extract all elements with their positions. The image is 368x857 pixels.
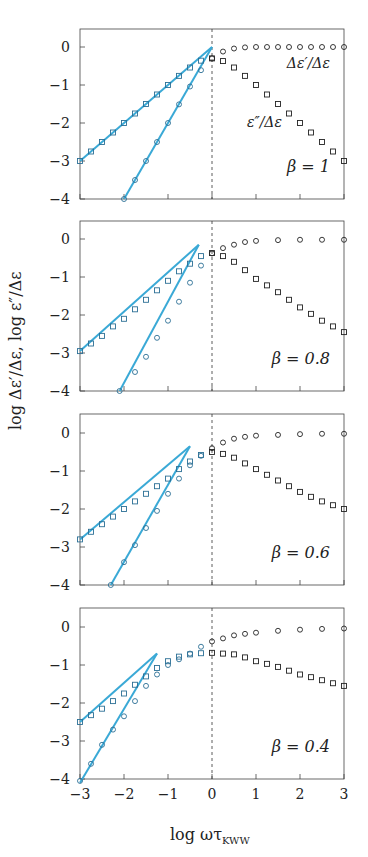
svg-text:ε″/Δε: ε″/Δε	[247, 114, 282, 130]
svg-text:−3: −3	[70, 786, 91, 802]
svg-text:−3: −3	[49, 345, 70, 361]
svg-text:−4: −4	[49, 191, 70, 207]
svg-text:−3: −3	[49, 153, 70, 169]
x-axis-label: log ωτKWW	[170, 825, 250, 846]
svg-text:−4: −4	[49, 771, 70, 787]
beta-label: β = 0.8	[271, 349, 330, 368]
panel-1: 0−1−2−3−4β = 1Δε′/Δεε″/Δε	[49, 29, 346, 207]
svg-text:1: 1	[252, 786, 261, 802]
beta-label: β = 0.4	[271, 737, 330, 756]
figure: 0−1−2−3−4β = 1Δε′/Δεε″/Δε0−1−2−3−4β = 0.…	[0, 0, 368, 857]
svg-text:Δε′/Δε: Δε′/Δε	[286, 55, 330, 71]
svg-text:−1: −1	[158, 786, 179, 802]
svg-text:−1: −1	[49, 269, 70, 285]
panel-2: 0−1−2−3−4β = 0.8	[49, 221, 346, 399]
svg-text:−2: −2	[49, 307, 70, 323]
svg-text:−1: −1	[49, 463, 70, 479]
y-axis-label: log Δε′/Δε, log ε″/Δε	[6, 271, 25, 430]
panel-4: 0−1−2−3−4β = 0.4−3−2−10123	[49, 608, 348, 802]
svg-text:3: 3	[340, 786, 349, 802]
svg-text:−3: −3	[49, 733, 70, 749]
beta-label: β = 1	[286, 157, 330, 176]
svg-text:−3: −3	[49, 539, 70, 555]
svg-text:−1: −1	[49, 77, 70, 93]
svg-text:−4: −4	[49, 383, 70, 399]
svg-text:0: 0	[208, 786, 217, 802]
svg-text:0: 0	[61, 425, 70, 441]
svg-text:−2: −2	[49, 501, 70, 517]
svg-text:−2: −2	[49, 115, 70, 131]
svg-text:2: 2	[296, 786, 305, 802]
svg-text:0: 0	[61, 619, 70, 635]
svg-text:0: 0	[61, 39, 70, 55]
svg-text:−1: −1	[49, 657, 70, 673]
svg-text:0: 0	[61, 231, 70, 247]
panel-3: 0−1−2−3−4β = 0.6	[49, 414, 346, 593]
svg-text:−4: −4	[49, 577, 70, 593]
svg-text:−2: −2	[49, 695, 70, 711]
beta-label: β = 0.6	[271, 543, 330, 562]
svg-text:−2: −2	[114, 786, 135, 802]
